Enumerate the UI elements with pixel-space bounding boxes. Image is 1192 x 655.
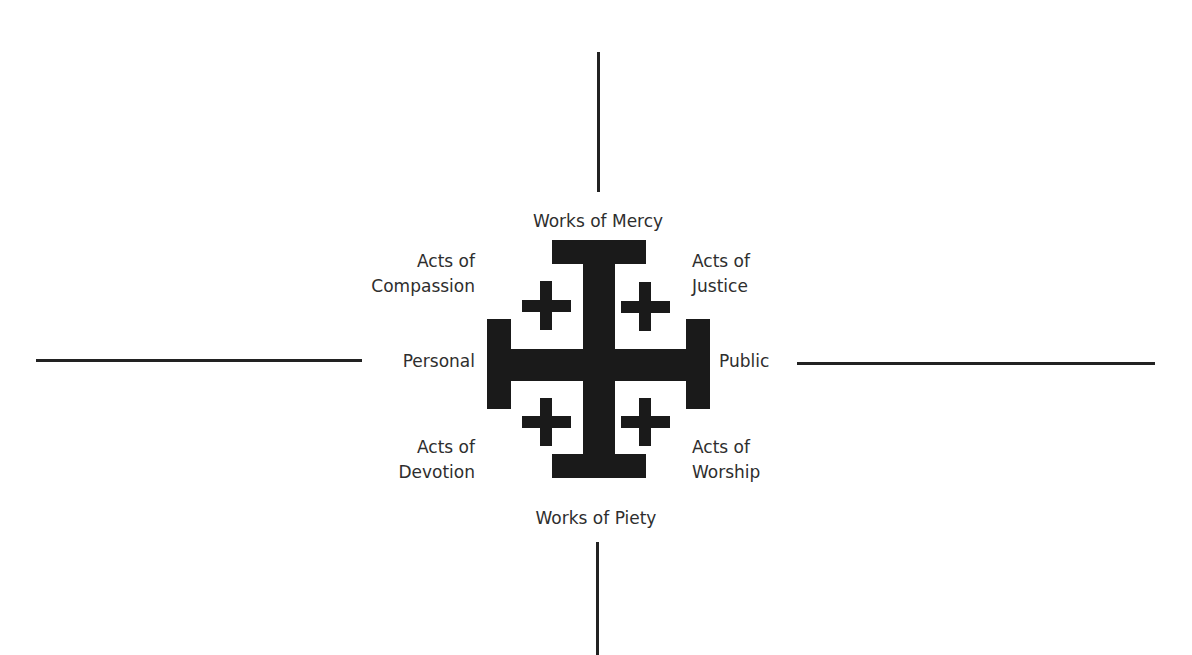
label-text: Public	[719, 350, 799, 372]
label-line-2: Devotion	[360, 461, 475, 483]
label-works-of-mercy: Works of Mercy	[498, 210, 698, 232]
label-line-1: Acts of	[692, 436, 802, 458]
label-line-1: Acts of	[692, 250, 802, 272]
label-line-1: Acts of	[360, 250, 475, 272]
label-line-2: Worship	[692, 461, 802, 483]
label-line-2: Compassion	[360, 275, 475, 297]
label-acts-of-devotion: Acts of Devotion	[360, 436, 475, 483]
label-personal: Personal	[360, 350, 475, 372]
label-text: Works of Piety	[496, 507, 696, 529]
label-text: Personal	[360, 350, 475, 372]
label-acts-of-justice: Acts of Justice	[692, 250, 802, 297]
jerusalem-cross-icon	[0, 0, 1192, 655]
label-line-2: Justice	[692, 275, 802, 297]
label-acts-of-worship: Acts of Worship	[692, 436, 802, 483]
label-public: Public	[719, 350, 799, 372]
label-text: Works of Mercy	[498, 210, 698, 232]
label-works-of-piety: Works of Piety	[496, 507, 696, 529]
label-acts-of-compassion: Acts of Compassion	[360, 250, 475, 297]
label-line-1: Acts of	[360, 436, 475, 458]
